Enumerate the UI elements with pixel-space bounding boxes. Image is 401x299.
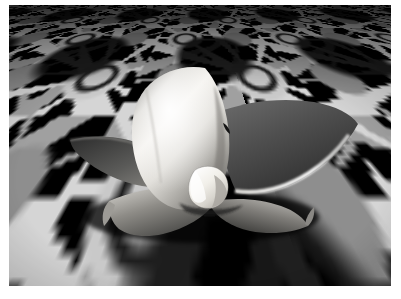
flower-object	[9, 5, 391, 286]
frame-margin-left	[0, 0, 9, 299]
frame-margin-top	[0, 0, 401, 5]
right-petal	[215, 100, 358, 194]
image-canvas: 3D rendered lily flower on tiled floor	[0, 0, 401, 299]
frame-margin-right	[391, 0, 401, 299]
image-caption: 3D rendered lily flower on tiled floor	[0, 289, 401, 296]
rendered-scene	[9, 5, 391, 286]
